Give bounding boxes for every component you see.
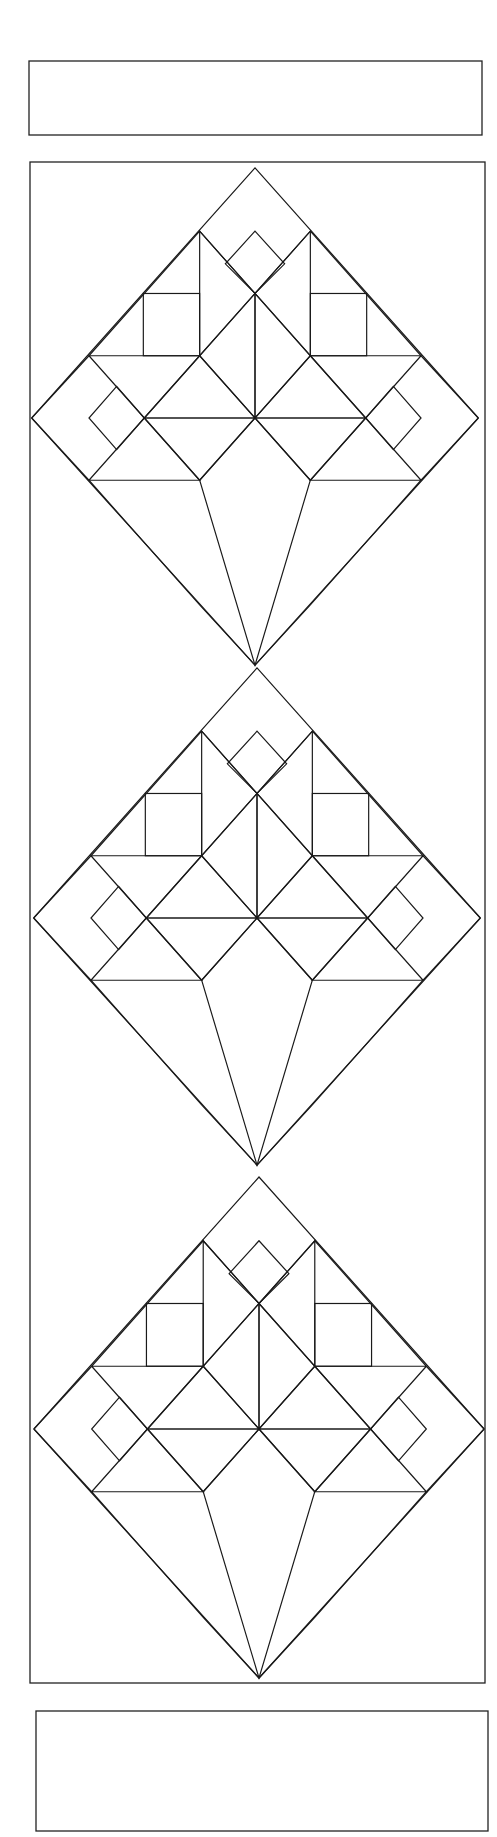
main-panel <box>30 162 485 1683</box>
block-2 <box>34 668 481 1165</box>
quilt-runner-figure <box>0 0 497 1837</box>
block-3 <box>34 1177 484 1678</box>
bottom-border-strip <box>36 1711 488 1831</box>
block-1 <box>32 168 479 665</box>
top-border-strip <box>29 61 482 135</box>
